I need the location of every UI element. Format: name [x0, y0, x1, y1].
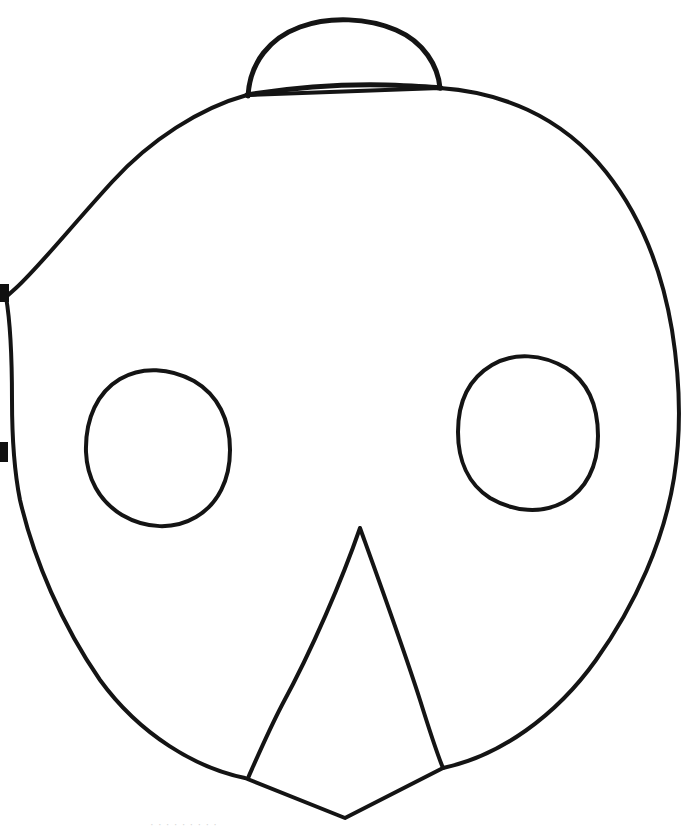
scan-mark-left-upper: [0, 284, 9, 302]
paper-background: [0, 0, 688, 829]
drawing-canvas: · · · · · · · · ·: [0, 0, 688, 829]
scan-mark-left-lower: [0, 442, 8, 462]
mask-face-drawing: [0, 0, 688, 829]
